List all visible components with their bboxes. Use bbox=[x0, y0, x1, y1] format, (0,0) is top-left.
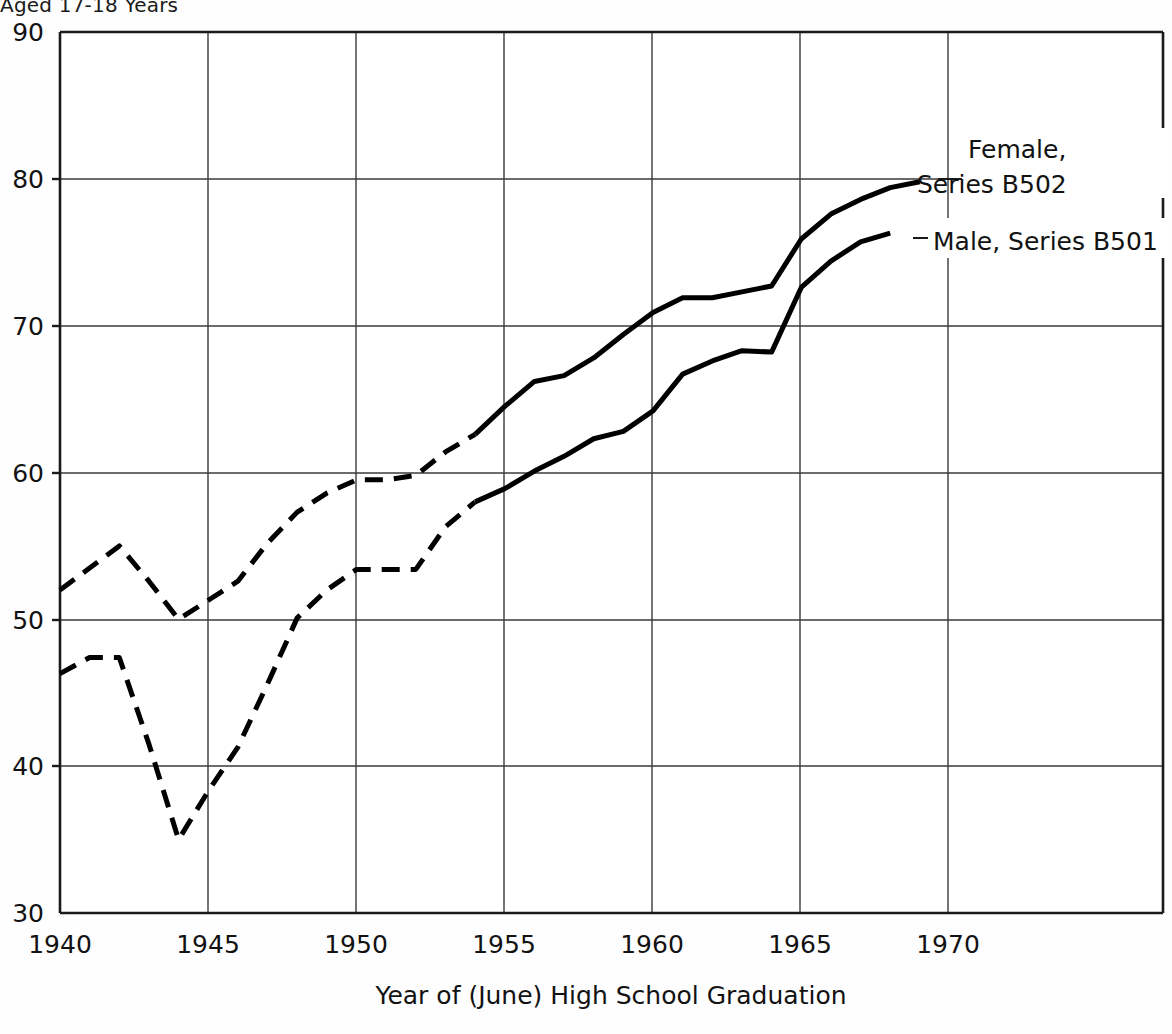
y-tick-label-70: 70 bbox=[12, 312, 44, 341]
y-axis-tick-labels: 90 80 70 60 50 40 30 bbox=[12, 18, 44, 928]
y-tick-label-60: 60 bbox=[12, 459, 44, 488]
legend-label-female-line2: Series B502 bbox=[917, 170, 1067, 199]
line-chart: 90 80 70 60 50 40 30 1940 1945 1950 1955… bbox=[0, 0, 1172, 1034]
y-tick-label-80: 80 bbox=[12, 165, 44, 194]
y-tick-label-90: 90 bbox=[12, 18, 44, 47]
y-tick-label-50: 50 bbox=[12, 606, 44, 635]
x-axis-title: Year of (June) High School Graduation bbox=[374, 981, 846, 1010]
x-tick-label-1965: 1965 bbox=[768, 930, 832, 959]
y-tick-label-40: 40 bbox=[12, 752, 44, 781]
x-axis-tick-labels: 1940 1945 1950 1955 1960 1965 1970 bbox=[28, 930, 980, 959]
y-tick-label-30: 30 bbox=[12, 899, 44, 928]
x-tick-label-1955: 1955 bbox=[472, 930, 536, 959]
x-tick-label-1940: 1940 bbox=[28, 930, 92, 959]
legend-label-female-line1: Female, bbox=[968, 135, 1066, 164]
chart-page: Aged 17-18 Years bbox=[0, 0, 1172, 1034]
legend-label-male: Male, Series B501 bbox=[933, 227, 1158, 256]
x-tick-label-1945: 1945 bbox=[176, 930, 240, 959]
x-tick-label-1960: 1960 bbox=[620, 930, 684, 959]
x-tick-label-1950: 1950 bbox=[324, 930, 388, 959]
x-tick-label-1970: 1970 bbox=[916, 930, 980, 959]
